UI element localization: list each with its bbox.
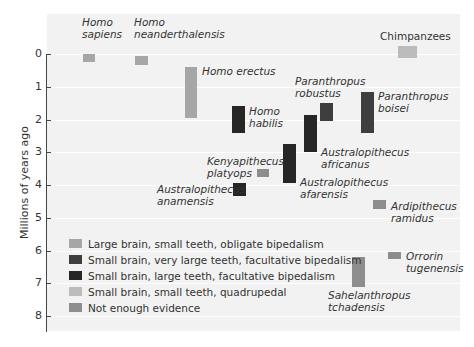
label-line: Kenyapithecus: [207, 155, 284, 167]
label-line: Chimpanzees: [380, 30, 451, 42]
label-line: afarensis: [300, 188, 388, 200]
legend-swatch: [69, 239, 82, 248]
gridline: [47, 316, 460, 317]
y-tick-label: 8: [28, 310, 42, 321]
label-line: Homo: [134, 16, 225, 28]
legend-label: Small brain, small teeth, quadrupedal: [88, 286, 287, 298]
label-line: Homo: [249, 105, 283, 117]
bar-australopithecus-africanus: [304, 115, 317, 153]
legend-item: Large brain, small teeth, obligate biped…: [69, 237, 324, 250]
legend-label: Small brain, very large teeth, facultati…: [88, 254, 362, 266]
label-line: Orrorin: [406, 250, 464, 262]
y-tick: [46, 87, 51, 88]
bar-homo-habilis: [232, 106, 245, 132]
label-paranthropus-robustus: Paranthropusrobustus: [295, 75, 365, 99]
label-kenyapithecus-platyops: Kenyapithecusplatyops: [207, 155, 284, 179]
bar-homo-neanderthalensis: [135, 56, 148, 66]
hominin-timeline-chart: 012345678 Millions of years ago Homosapi…: [0, 0, 474, 347]
y-tick-label: 0: [28, 48, 42, 59]
y-tick-label: 1: [28, 81, 42, 92]
bar-australopithecus-afarensis: [283, 144, 296, 183]
y-tick: [46, 316, 51, 317]
bar-homo-erectus: [185, 67, 197, 118]
label-chimpanzees: Chimpanzees: [380, 30, 451, 42]
y-tick: [46, 218, 51, 219]
label-line: anamensis: [157, 195, 245, 207]
label-ardipithecus-ramidus: Ardipithecusramidus: [391, 200, 457, 224]
label-homo-habilis: Homohabilis: [249, 105, 283, 129]
label-homo-sapiens: Homosapiens: [82, 16, 122, 40]
label-line: Ardipithecus: [391, 200, 457, 212]
y-tick: [46, 54, 51, 55]
gridline: [47, 185, 460, 186]
legend-label: Not enough evidence: [88, 302, 200, 314]
label-australopithecus-afarensis: Australopithecusafarensis: [300, 176, 388, 200]
bar-chimpanzees: [398, 46, 417, 58]
label-paranthropus-boisei: Paranthropusboisei: [378, 90, 448, 114]
label-australopithecus-anamensis: Australopithecusanamensis: [157, 183, 245, 207]
label-sahelanthropus-tchadensis: Sahelanthropustchadensis: [328, 289, 411, 313]
label-line: Australopithecus: [157, 183, 245, 195]
label-line: Homo: [82, 16, 122, 28]
legend-swatch: [69, 271, 82, 280]
legend-item: Small brain, large teeth, facultative bi…: [69, 269, 335, 282]
label-line: Paranthropus: [378, 90, 448, 102]
bar-paranthropus-robustus: [320, 103, 333, 121]
y-tick-label: 7: [28, 277, 42, 288]
label-line: robustus: [295, 87, 365, 99]
label-line: neanderthalensis: [134, 28, 225, 40]
label-line: africanus: [321, 158, 409, 170]
label-line: tchadensis: [328, 301, 411, 313]
y-tick: [46, 251, 51, 252]
label-line: Australopithecus: [321, 146, 409, 158]
bar-homo-sapiens: [83, 54, 95, 62]
y-tick: [46, 283, 51, 284]
legend-swatch: [69, 255, 82, 264]
legend-label: Large brain, small teeth, obligate biped…: [88, 238, 324, 250]
legend-item: Small brain, small teeth, quadrupedal: [69, 285, 287, 298]
legend-swatch: [69, 303, 82, 312]
label-line: platyops: [207, 167, 284, 179]
legend-item: Small brain, very large teeth, facultati…: [69, 253, 362, 266]
label-line: habilis: [249, 117, 283, 129]
y-axis-label: Millions of years ago: [18, 123, 31, 243]
gridline: [47, 283, 460, 284]
label-line: sapiens: [82, 28, 122, 40]
label-line: Australopithecus: [300, 176, 388, 188]
legend-label: Small brain, large teeth, facultative bi…: [88, 270, 335, 282]
bar-orrorin-tugenensis: [388, 252, 401, 259]
label-australopithecus-africanus: Australopithecusafricanus: [321, 146, 409, 170]
gridline: [47, 87, 460, 88]
y-tick: [46, 120, 51, 121]
label-line: ramidus: [391, 212, 457, 224]
y-tick: [46, 152, 51, 153]
label-line: Paranthropus: [295, 75, 365, 87]
label-homo-erectus: Homo erectus: [202, 65, 276, 77]
y-tick-label: 6: [28, 245, 42, 256]
label-line: tugenensis: [406, 262, 464, 274]
y-tick: [46, 185, 51, 186]
y-axis-line: [46, 54, 47, 332]
label-orrorin-tugenensis: Orrorintugenensis: [406, 250, 464, 274]
bar-ardipithecus-ramidus: [373, 200, 386, 209]
label-line: boisei: [378, 102, 448, 114]
legend-item: Not enough evidence: [69, 301, 200, 314]
label-homo-neanderthalensis: Homoneanderthalensis: [134, 16, 225, 40]
label-line: Sahelanthropus: [328, 289, 411, 301]
legend-swatch: [69, 287, 82, 296]
label-line: Homo erectus: [202, 65, 276, 77]
